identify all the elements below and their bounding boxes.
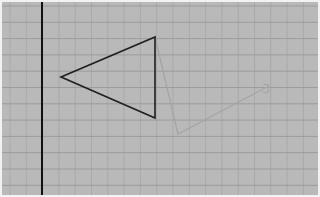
vertex-label: 3: [262, 81, 270, 96]
drawing-canvas[interactable]: 3: [0, 0, 320, 197]
